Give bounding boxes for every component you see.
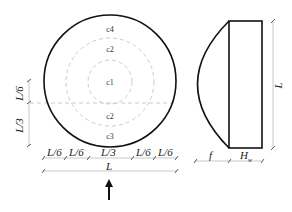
zone-label-c4: c4: [106, 26, 114, 34]
dim-label-5: L/6: [158, 147, 173, 158]
zone-label-c1: c1: [106, 79, 114, 87]
dim-label-left-1: L/6: [14, 86, 25, 101]
dim-label-4: L/6: [136, 147, 151, 158]
zone-label-c3: c3: [106, 133, 114, 141]
zone-label-c2-top: c2: [106, 46, 114, 54]
dim-label-1: L/6: [47, 147, 62, 158]
up-arrow-icon: [105, 179, 113, 200]
dim-label-3: L/3: [101, 147, 116, 158]
dome-curve: [198, 21, 230, 148]
hw-label: Hw: [240, 150, 252, 163]
zone-label-c2-bottom: c2: [106, 113, 114, 121]
wall-rect: [229, 21, 262, 148]
f-label: f: [209, 150, 212, 161]
dim-label-2: L/6: [69, 147, 84, 158]
h-text: H: [240, 149, 248, 161]
w-subscript: w: [248, 157, 252, 163]
diagram-canvas: [0, 0, 292, 212]
side-height-label: L: [273, 82, 284, 88]
dim-label-overall: L: [106, 161, 112, 172]
dim-label-left-2: L/3: [14, 118, 25, 133]
